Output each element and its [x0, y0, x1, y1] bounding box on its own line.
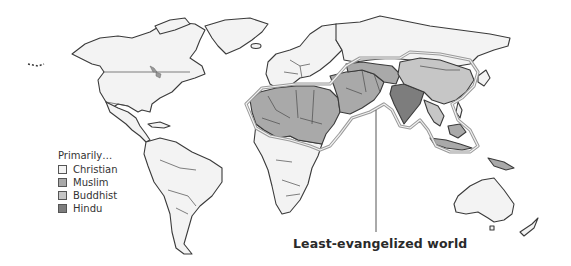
legend-item-buddhist: Buddhist: [58, 189, 118, 202]
swatch-hindu: [58, 204, 67, 213]
swatch-muslim: [58, 178, 67, 187]
world-map: [0, 0, 571, 266]
oceania: [454, 178, 538, 236]
least-evangelized-label: Least-evangelized world: [293, 236, 467, 251]
legend-label: Muslim: [73, 176, 108, 189]
legend-label: Buddhist: [73, 189, 117, 202]
legend-label: Hindu: [73, 202, 102, 215]
swatch-christian: [58, 165, 67, 174]
legend-item-christian: Christian: [58, 163, 118, 176]
swatch-buddhist: [58, 191, 67, 200]
north-america: [28, 18, 268, 142]
legend-item-muslim: Muslim: [58, 176, 118, 189]
africa: [250, 86, 340, 214]
south-america: [144, 138, 222, 254]
legend-label: Christian: [73, 163, 118, 176]
legend-item-hindu: Hindu: [58, 202, 118, 215]
legend: Primarily… Christian Muslim Buddhist Hin…: [58, 149, 118, 215]
legend-title: Primarily…: [58, 149, 118, 162]
